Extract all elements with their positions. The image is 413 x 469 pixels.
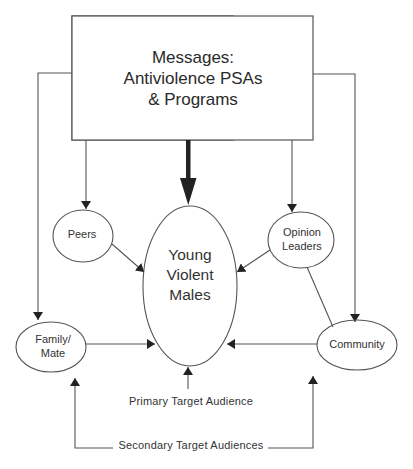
- secondary-target-caption: Secondary Target Audiences: [118, 439, 263, 452]
- community-label: Community: [329, 337, 385, 351]
- primary-line-2: Violent: [166, 265, 213, 285]
- opinion-leaders-label: Opinion Leaders: [282, 225, 322, 253]
- family-line-1: Family/: [35, 332, 70, 346]
- messages-line-3: & Programs: [124, 89, 263, 110]
- arrow-secondary-left: [75, 378, 113, 448]
- opinion-line-2: Leaders: [282, 239, 322, 253]
- arrow-peers-to-primary: [112, 244, 144, 272]
- community-line-1: Community: [329, 337, 385, 351]
- arrow-secondary-right: [268, 376, 313, 448]
- arrow-box-to-community: [313, 74, 355, 322]
- thick-arrow-head: [180, 178, 197, 205]
- peers-line-1: Peers: [68, 227, 97, 241]
- thick-arrow-shaft: [186, 140, 191, 180]
- primary-line-1: Young: [166, 245, 213, 265]
- opinion-line-1: Opinion: [282, 225, 322, 239]
- messages-line-1: Messages:: [124, 47, 263, 68]
- primary-target-caption: Primary Target Audience: [129, 395, 253, 408]
- primary-node-label: Young Violent Males: [166, 245, 213, 305]
- messages-line-2: Antiviolence PSAs: [124, 68, 263, 89]
- link-opinion-community: [307, 267, 333, 327]
- messages-box-label: Messages: Antiviolence PSAs & Programs: [124, 47, 263, 110]
- arrow-opinion-to-primary: [237, 250, 270, 272]
- primary-line-3: Males: [166, 285, 213, 305]
- arrow-box-to-family: [38, 73, 72, 320]
- peers-label: Peers: [68, 227, 97, 241]
- family-line-2: Mate: [35, 346, 70, 360]
- family-mate-label: Family/ Mate: [35, 332, 70, 360]
